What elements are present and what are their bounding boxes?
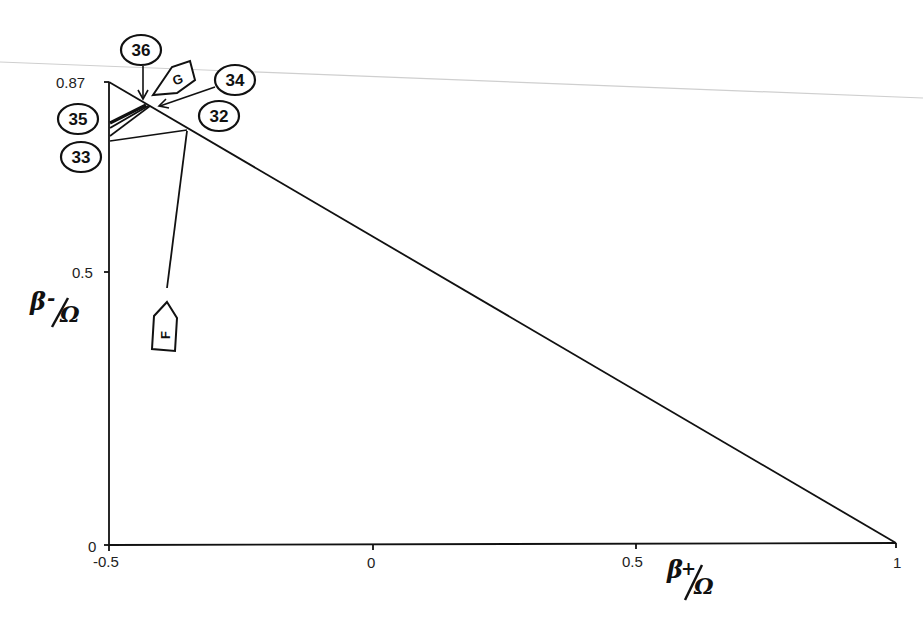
- y-axis-label: β - Ω: [29, 286, 80, 327]
- x-axis-line: [109, 543, 896, 545]
- x-tick-label--0.5: -0.5: [93, 553, 119, 570]
- svg-text:33: 33: [72, 148, 91, 167]
- scan-artifact-line: [0, 62, 923, 98]
- svg-text:Ω: Ω: [59, 301, 80, 327]
- circled-label-34: 34: [215, 65, 255, 95]
- tag-label-G: G: [153, 61, 195, 95]
- svg-text:F: F: [158, 331, 173, 339]
- circled-label-35: 35: [58, 104, 98, 134]
- svg-text:Ω: Ω: [693, 573, 714, 599]
- boundary-hypotenuse: [109, 82, 896, 543]
- svg-text:-: -: [47, 286, 55, 310]
- x-tick-label-0.5: 0.5: [622, 553, 643, 570]
- x-tick-label-0: 0: [367, 554, 375, 571]
- y-tick-label-0.87: 0.87: [56, 74, 85, 91]
- x-tick-label-1: 1: [893, 554, 901, 571]
- svg-text:β: β: [29, 287, 46, 316]
- circled-label-33: 33: [61, 142, 101, 172]
- region-35-line-b: [110, 106, 148, 128]
- region-32-line: [110, 130, 187, 141]
- x-axis-label: β + Ω: [666, 555, 714, 600]
- axes: [104, 82, 896, 551]
- diagram-canvas: 0.87 0.5 0 -0.5 0 0.5 1 β - Ω β + Ω: [0, 0, 923, 622]
- tag-label-F: F: [152, 302, 177, 351]
- subregions: [110, 105, 187, 288]
- circled-label-36: 36: [121, 35, 161, 65]
- svg-text:35: 35: [69, 110, 88, 129]
- svg-text:32: 32: [210, 107, 229, 126]
- line-F: [167, 131, 187, 288]
- svg-text:34: 34: [226, 71, 245, 90]
- svg-text:36: 36: [132, 41, 151, 60]
- circled-label-32: 32: [199, 101, 239, 131]
- y-tick-label-0.5: 0.5: [72, 264, 93, 281]
